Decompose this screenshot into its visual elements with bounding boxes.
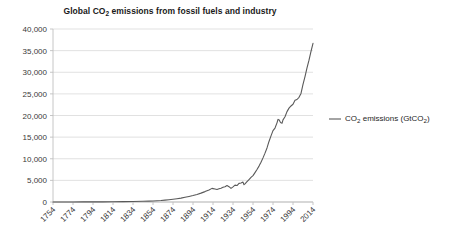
legend-label-part3: ) — [427, 114, 430, 123]
x-tick-label: 1794 — [78, 205, 97, 224]
x-tick-label: 1874 — [158, 205, 177, 224]
x-tick-label: 1994 — [278, 205, 297, 224]
y-tick-label: 35,000 — [23, 47, 48, 56]
y-tick-label: 15,000 — [23, 133, 48, 142]
x-tick-labels-group: 1754177417941814183418541874189419141934… — [38, 205, 317, 224]
gridlines-group — [53, 29, 313, 202]
y-tick-label: 0 — [43, 198, 48, 207]
x-tick-label: 1774 — [58, 205, 77, 224]
y-tick-label: 30,000 — [23, 68, 48, 77]
y-tick-label: 40,000 — [23, 25, 48, 34]
x-tick-label: 1934 — [218, 205, 237, 224]
chart-container: Global CO2 emissions from fossil fuels a… — [0, 0, 454, 248]
legend-label-sub2: 2 — [424, 117, 427, 124]
x-tick-label: 1754 — [38, 205, 57, 224]
y-tick-label: 5,000 — [27, 176, 48, 185]
data-series-group — [53, 43, 313, 202]
x-tick-label: 1954 — [238, 205, 257, 224]
x-tick-label: 2014 — [298, 205, 317, 224]
x-tick-label: 1854 — [138, 205, 157, 224]
x-tick-label: 1894 — [178, 205, 197, 224]
chart-plot-svg: 40,00035,00030,00025,00020,00015,00010,0… — [0, 0, 454, 248]
x-tick-label: 1914 — [198, 205, 217, 224]
y-tick-labels-group: 40,00035,00030,00025,00020,00015,00010,0… — [23, 25, 53, 207]
y-tick-label: 20,000 — [23, 112, 48, 121]
x-tick-label: 1974 — [258, 205, 277, 224]
x-tick-label: 1814 — [98, 205, 117, 224]
legend-label-part1: CO — [345, 114, 357, 123]
x-tick-label: 1834 — [118, 205, 137, 224]
y-tick-label: 10,000 — [23, 155, 48, 164]
y-tick-label: 25,000 — [23, 90, 48, 99]
data-line — [53, 43, 313, 202]
legend-label-part2: emissions (GtCO — [360, 114, 423, 123]
legend-label-sub1: 2 — [357, 117, 360, 124]
legend-item-label: CO2 emissions (GtCO2) — [345, 114, 430, 123]
